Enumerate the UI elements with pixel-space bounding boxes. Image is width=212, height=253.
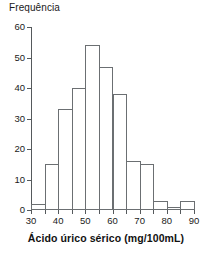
x-tick-mark: [72, 210, 73, 214]
plot-area: 0102030405060 30405060708090: [31, 27, 194, 210]
histogram-bar: [153, 201, 168, 210]
histogram-bar: [45, 164, 60, 210]
histogram-bar: [126, 161, 141, 210]
histogram-bar: [85, 45, 100, 210]
x-tick-label: 70: [134, 216, 145, 226]
y-tick-label: 10: [14, 175, 25, 185]
histogram-bar: [167, 207, 182, 210]
x-tick-mark: [113, 210, 114, 214]
y-tick-label: 20: [14, 144, 25, 154]
x-tick-label: 50: [80, 216, 91, 226]
x-tick-label: 60: [107, 216, 118, 226]
x-tick-mark: [31, 210, 32, 214]
histogram-bar: [99, 67, 114, 210]
x-tick-mark: [140, 210, 141, 214]
x-axis-title: Ácido úrico sérico (mg/100mL): [0, 232, 212, 244]
x-tick-mark: [126, 210, 127, 214]
y-tick-label: 0: [20, 205, 25, 215]
y-tick-label: 40: [14, 83, 25, 93]
histogram-bar: [180, 201, 195, 210]
x-tick-label: 30: [26, 216, 37, 226]
x-tick-label: 80: [162, 216, 173, 226]
histogram-bars: [31, 27, 194, 210]
x-tick-mark: [194, 210, 195, 214]
x-tick-label: 90: [189, 216, 200, 226]
y-tick-label: 60: [14, 22, 25, 32]
x-tick-mark: [45, 210, 46, 214]
histogram-bar: [31, 204, 46, 210]
x-tick-mark: [167, 210, 168, 214]
y-axis-title: Frequência: [9, 2, 60, 14]
x-tick-mark: [180, 210, 181, 214]
x-tick-mark: [99, 210, 100, 214]
histogram-bar: [140, 164, 155, 210]
x-tick-mark: [58, 210, 59, 214]
x-tick-label: 40: [53, 216, 64, 226]
y-tick-label: 50: [14, 53, 25, 63]
y-tick-label: 30: [14, 114, 25, 124]
x-tick-mark: [153, 210, 154, 214]
histogram-bar: [113, 94, 128, 210]
x-tick-mark: [85, 210, 86, 214]
histogram-bar: [72, 88, 87, 210]
histogram-bar: [58, 109, 73, 210]
histogram-figure: Frequência 0102030405060 30405060708090 …: [0, 0, 212, 253]
